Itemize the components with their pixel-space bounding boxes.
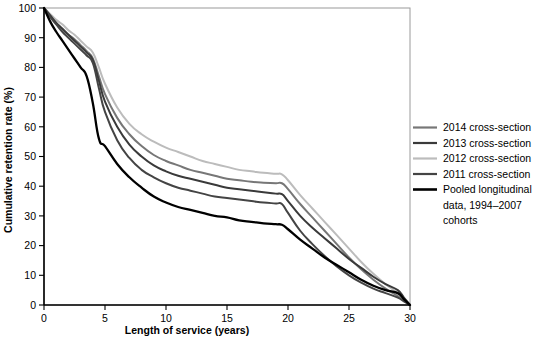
y-tick-label: 30 — [24, 210, 36, 222]
x-axis-title: Length of service (years) — [125, 324, 249, 336]
y-tick-label: 80 — [24, 61, 36, 73]
x-tick-label: 20 — [282, 312, 294, 324]
legend-label: 2013 cross-section — [443, 137, 531, 149]
y-tick-label: 10 — [24, 269, 36, 281]
y-tick-label: 0 — [30, 299, 36, 311]
chart-canvas: 0102030405060708090100 051015202530 Leng… — [0, 0, 557, 343]
legend-label: data, 1994–2007 — [443, 199, 522, 211]
retention-chart-figure: 0102030405060708090100 051015202530 Leng… — [0, 0, 557, 343]
y-tick-label: 60 — [24, 121, 36, 133]
y-tick-label: 100 — [18, 2, 36, 14]
y-tick-label: 20 — [24, 239, 36, 251]
legend-label: 2012 cross-section — [443, 152, 531, 164]
y-tick-label: 70 — [24, 91, 36, 103]
y-tick-label: 50 — [24, 150, 36, 162]
legend-label: Pooled longitudinal — [443, 183, 532, 195]
x-tick-label: 15 — [221, 312, 233, 324]
x-tick-label: 10 — [160, 312, 172, 324]
legend-label: 2011 cross-section — [443, 168, 531, 180]
x-tick-label: 25 — [343, 312, 355, 324]
x-tick-label: 5 — [102, 312, 108, 324]
y-axis-title: Cumulative retention rate (%) — [2, 87, 14, 233]
legend-label: cohorts — [443, 214, 477, 226]
x-tick-label: 0 — [41, 312, 47, 324]
y-tick-label: 40 — [24, 180, 36, 192]
y-tick-label: 90 — [24, 32, 36, 44]
legend-label: 2014 cross-section — [443, 121, 531, 133]
x-tick-label: 30 — [404, 312, 416, 324]
